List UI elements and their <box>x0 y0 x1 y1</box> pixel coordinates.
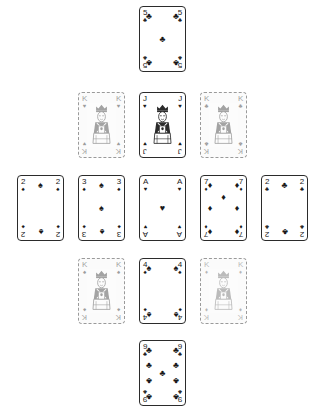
card-rank: K <box>238 313 243 321</box>
card-suit-hearts-icon: ♥ <box>117 103 121 109</box>
card-corner-index-tl: 2♠ <box>21 178 25 192</box>
card-rank: K <box>204 147 209 155</box>
card-pip-clubs-icon: ♣ <box>146 12 152 21</box>
card-suit-diamonds-icon: ♦ <box>239 269 242 275</box>
card-corner-index-tl: A♥ <box>143 178 148 192</box>
card-pip-diamonds-icon: ♦ <box>208 204 213 213</box>
card-rank: K <box>204 313 209 321</box>
card-suit-spades-icon: ♠ <box>117 269 120 275</box>
card-corner-index-tr: 2♠ <box>56 178 60 192</box>
card-pip-spades-icon: ♠ <box>38 227 43 236</box>
card-corner-index-br: 3♠ <box>117 224 121 238</box>
card-suit-hearts-icon: ♥ <box>178 224 182 230</box>
card-pip-diamonds-icon: ♦ <box>208 181 213 190</box>
card-suit-spades-icon: ♠ <box>178 307 181 313</box>
card-corner-index-bl: A♥ <box>143 224 148 238</box>
playing-card[interactable]: K♣K♣K♣K♣ <box>200 92 247 158</box>
card-suit-diamonds-icon: ♦ <box>239 186 242 192</box>
card-suit-spades-icon: ♠ <box>117 307 120 313</box>
playing-card[interactable]: 2♠2♠2♠2♠♠♠ <box>17 175 64 241</box>
card-pip-hearts-icon: ♥ <box>160 204 165 213</box>
card-rank: 2 <box>21 178 25 186</box>
card-pip-spades-icon: ♠ <box>99 204 104 213</box>
playing-card[interactable]: K♠K♠K♠K♠ <box>78 258 125 324</box>
card-pip-clubs-icon: ♣ <box>146 392 152 401</box>
playing-card[interactable]: K♦K♦K♦K♦ <box>200 258 247 324</box>
card-pip-clubs-icon: ♣ <box>146 58 152 67</box>
card-suit-clubs-icon: ♣ <box>265 186 269 192</box>
card-suit-hearts-icon: ♥ <box>117 141 121 147</box>
card-pip-field: ♠♠♠♠ <box>149 268 176 314</box>
playing-card[interactable]: K♥K♥K♥K♥ <box>78 92 125 158</box>
card-suit-spades-icon: ♠ <box>117 186 120 192</box>
card-rank: 3 <box>117 230 121 238</box>
card-suit-hearts-icon: ♥ <box>178 186 182 192</box>
card-suit-diamonds-icon: ♦ <box>239 224 242 230</box>
card-pip-clubs-icon: ♣ <box>282 227 288 236</box>
card-rank: 2 <box>300 178 304 186</box>
card-pip-clubs-icon: ♣ <box>146 376 152 385</box>
card-rank: K <box>116 313 121 321</box>
card-pip-diamonds-icon: ♦ <box>208 227 213 236</box>
playing-card[interactable]: 3♠3♠3♠3♠♠♠♠ <box>78 175 125 241</box>
card-corner-index-tl: 2♣ <box>265 178 269 192</box>
playing-card[interactable]: 2♣2♣2♣2♣♣♣ <box>261 175 308 241</box>
card-corner-index-tr: J♥ <box>178 95 182 109</box>
playing-card[interactable]: J♥J♥J♥J♥ <box>139 92 186 158</box>
playing-card[interactable]: 9♣9♣9♣9♣♣♣♣♣♣♣♣♣♣ <box>139 340 186 406</box>
card-pip-field: ♣♣ <box>271 185 298 231</box>
card-corner-index-tl: 3♠ <box>82 178 86 192</box>
card-pip-clubs-icon: ♣ <box>173 346 179 355</box>
card-pip-field: ♠♠♠ <box>88 185 115 231</box>
card-suit-spades-icon: ♠ <box>56 186 59 192</box>
card-pip-field: ♣♣♣♣♣ <box>149 16 176 62</box>
card-rank: 7 <box>239 230 243 238</box>
playing-card[interactable]: 7♦7♦7♦7♦♦♦♦♦♦♦♦ <box>200 175 247 241</box>
card-row-2: K♥K♥K♥K♥J♥J♥J♥J♥K♣K♣K♣K♣ <box>0 92 325 158</box>
card-pip-clubs-icon: ♣ <box>146 346 152 355</box>
card-pip-clubs-icon: ♣ <box>173 361 179 370</box>
card-corner-index-br: 7♦ <box>239 224 243 238</box>
card-suit-spades-icon: ♠ <box>21 224 24 230</box>
card-suit-spades-icon: ♠ <box>82 224 85 230</box>
card-pip-spades-icon: ♠ <box>174 310 179 319</box>
card-suit-clubs-icon: ♣ <box>239 103 243 109</box>
card-corner-index-br: J♥ <box>178 141 182 155</box>
card-pip-diamonds-icon: ♦ <box>235 204 240 213</box>
card-rank: 2 <box>265 178 269 186</box>
card-suit-diamonds-icon: ♦ <box>239 307 242 313</box>
court-figure-illustration <box>208 102 239 148</box>
card-corner-index-bl: 2♣ <box>265 224 269 238</box>
court-figure-illustration <box>147 102 178 148</box>
card-suit-spades-icon: ♠ <box>117 224 120 230</box>
card-rank: 2 <box>265 230 269 238</box>
card-row-1: 5♣5♣5♣5♣♣♣♣♣♣ <box>0 6 325 72</box>
card-rank: K <box>116 147 121 155</box>
card-suit-hearts-icon: ♥ <box>144 224 148 230</box>
card-pip-spades-icon: ♠ <box>38 181 43 190</box>
card-pip-spades-icon: ♠ <box>147 310 152 319</box>
card-suit-clubs-icon: ♣ <box>300 186 304 192</box>
card-pip-clubs-icon: ♣ <box>173 392 179 401</box>
card-suit-clubs-icon: ♣ <box>239 141 243 147</box>
playing-card[interactable]: A♥A♥A♥A♥♥ <box>139 175 186 241</box>
card-pip-clubs-icon: ♣ <box>173 376 179 385</box>
card-row-3: 2♠2♠2♠2♠♠♠3♠3♠3♠3♠♠♠♠A♥A♥A♥A♥♥7♦7♦7♦7♦♦♦… <box>0 175 325 241</box>
card-pip-diamonds-icon: ♦ <box>235 227 240 236</box>
card-corner-index-tr: A♥ <box>177 178 182 192</box>
card-corner-index-br: 2♠ <box>56 224 60 238</box>
playing-card[interactable]: 5♣5♣5♣5♣♣♣♣♣♣ <box>139 6 186 72</box>
card-corner-index-br: 4♠ <box>178 307 182 321</box>
card-pip-clubs-icon: ♣ <box>282 181 288 190</box>
card-rank: A <box>177 230 182 238</box>
card-board: 5♣5♣5♣5♣♣♣♣♣♣K♥K♥K♥K♥J♥J♥J♥J♥K♣K♣K♣K♣2♠2… <box>0 0 325 412</box>
card-corner-index-br: A♥ <box>177 224 182 238</box>
card-corner-index-tr: 3♠ <box>117 178 121 192</box>
court-figure-illustration <box>86 102 117 148</box>
card-corner-index-br: 2♣ <box>300 224 304 238</box>
court-figure-illustration <box>86 268 117 314</box>
card-suit-spades-icon: ♠ <box>82 186 85 192</box>
card-suit-spades-icon: ♠ <box>56 224 59 230</box>
card-pip-field: ♣♣♣♣♣♣♣♣♣ <box>149 350 176 396</box>
playing-card[interactable]: 4♠4♠4♠4♠♠♠♠♠ <box>139 258 186 324</box>
